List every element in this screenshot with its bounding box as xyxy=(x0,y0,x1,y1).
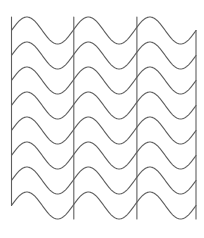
wave-pattern-figure xyxy=(0,0,204,238)
wave-pattern-canvas xyxy=(0,0,204,238)
